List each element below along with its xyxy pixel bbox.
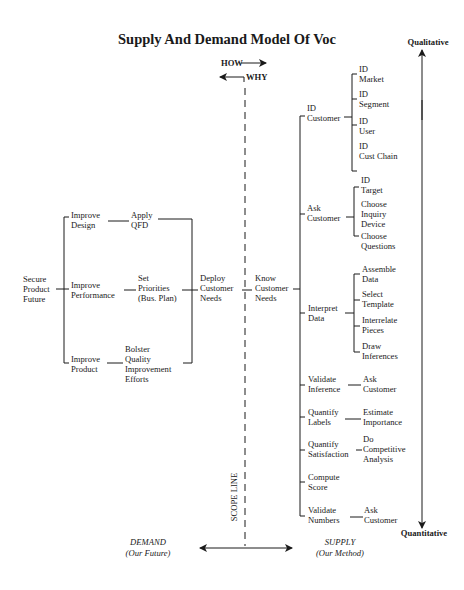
why-label: WHY — [246, 72, 268, 82]
node-id-target: ID Target — [361, 175, 383, 195]
scope-line-label: SCOPE LINE — [229, 473, 239, 521]
node-id-cust-chain: ID Cust Chain — [359, 141, 398, 161]
node-deploy-customer-needs: Deploy Customer Needs — [200, 273, 236, 303]
demand-tree: Secure Product Future Improve Design App… — [23, 210, 236, 384]
node-apply-qfd: Apply QFD — [131, 210, 155, 230]
node-choose-questions: Choose Questions — [361, 231, 396, 251]
node-select-template: Select Template — [362, 289, 394, 309]
node-assemble-data: Assemble Data — [362, 264, 398, 284]
node-know-customer-needs: Know Customer Needs — [255, 273, 291, 303]
supply-sub-label: (Our Method) — [316, 548, 364, 558]
diagram-title: Supply And Demand Model Of Voc — [118, 31, 337, 47]
how-label: HOW — [221, 58, 243, 68]
node-ask-customer-inference: Ask Customer — [363, 374, 397, 394]
node-secure-product-future: Secure Product Future — [23, 274, 52, 304]
supply-label: SUPPLY — [325, 537, 357, 547]
node-interpret-data: Interpret Data — [308, 303, 340, 323]
node-ask-customer-numbers: Ask Customer — [364, 505, 398, 525]
node-interrelate-pieces: Interrelate Pieces — [362, 315, 399, 335]
node-estimate-importance: Estimate Importance — [363, 407, 402, 427]
node-improve-design: Improve Design — [71, 210, 102, 230]
node-ask-customer: Ask Customer — [307, 203, 341, 223]
node-set-priorities: Set Priorities (Bus. Plan) — [138, 273, 177, 303]
node-quantify-labels: Quantify Labels — [308, 407, 341, 427]
supply-tree: Know Customer Needs ID Customer ID Marke… — [242, 64, 408, 525]
demand-label: DEMAND — [129, 537, 167, 547]
node-id-user: ID User — [359, 116, 375, 136]
node-validate-inference: Validate Inference — [308, 374, 341, 394]
node-bolster-quality: Bolster Quality Improvement Efforts — [125, 344, 173, 384]
node-choose-inquiry-device: Choose Inquiry Device — [361, 199, 389, 229]
node-id-customer: ID Customer — [307, 103, 341, 123]
node-id-segment: ID Segment — [359, 89, 390, 109]
qualitative-label: Qualitative — [407, 37, 448, 47]
node-do-competitive-analysis: Do Competitive Analysis — [363, 434, 408, 464]
node-draw-inferences: Draw Inferences — [362, 341, 398, 361]
voc-diagram: Supply And Demand Model Of Voc Qualitati… — [0, 0, 464, 590]
node-validate-numbers: Validate Numbers — [308, 505, 340, 525]
node-id-market: ID Market — [359, 64, 384, 84]
node-compute-score: Compute Score — [308, 472, 342, 492]
quantitative-label: Quantitative — [401, 528, 447, 538]
node-improve-performance: Improve Performance — [71, 280, 115, 300]
node-quantify-satisfaction: Quantify Satisfaction — [308, 439, 349, 459]
node-improve-product: Improve Product — [71, 354, 102, 374]
demand-sub-label: (Our Future) — [126, 548, 171, 558]
